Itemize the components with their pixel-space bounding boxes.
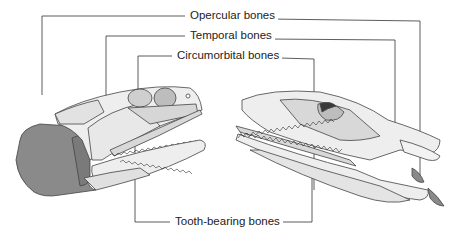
- label-opercular-bones: Opercular bones: [187, 9, 278, 22]
- right-skull: [236, 91, 444, 206]
- label-circumorbital-bones: Circumorbital bones: [174, 49, 282, 62]
- left-nostril: [186, 94, 190, 98]
- label-tooth-bearing-bones: Tooth-bearing bones: [172, 215, 283, 228]
- label-temporal-bones: Temporal bones: [187, 29, 275, 42]
- right-opercular-2: [428, 188, 444, 206]
- left-orbit-bone-1: [128, 89, 152, 107]
- leader-opercular-left: [42, 16, 185, 95]
- right-opercular-1: [412, 168, 424, 182]
- left-skull: [16, 87, 205, 196]
